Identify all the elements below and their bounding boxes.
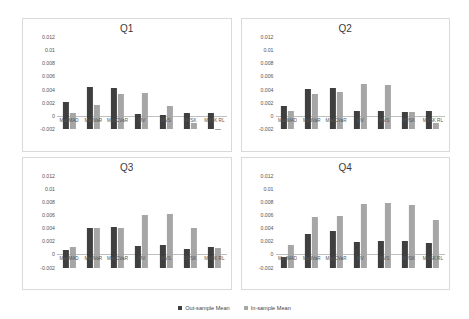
bar (87, 228, 93, 267)
chart-panel-q2: Q20.0120.010.0080.0060.0040.0020-0.002Ma… (241, 18, 451, 152)
legend-item: In-sample Mean (244, 305, 291, 311)
bar (426, 243, 432, 268)
panel-title: Q4 (242, 162, 450, 173)
y-axis-tick: 0.006 (42, 73, 55, 79)
y-axis-tick: 0.012 (261, 173, 274, 179)
y-axis-tick: 0.002 (42, 100, 55, 106)
y-axis-tick: 0.01 (263, 186, 273, 192)
x-axis-tick: MadVaR (85, 256, 103, 261)
y-axis-tick: 0.004 (261, 225, 274, 231)
x-axis-tick: MadMAD (60, 256, 79, 261)
x-axis-tick: MV (357, 118, 364, 123)
y-axis-tick: 0.002 (261, 238, 274, 244)
bar (305, 234, 311, 268)
x-axis-tick: MadCVaR (107, 256, 128, 261)
y-axis-tick: 0.002 (261, 100, 274, 106)
y-axis-tick: 0.006 (261, 73, 274, 79)
bars-area (276, 176, 446, 268)
x-axis-tick: MV (138, 256, 145, 261)
x-axis-tick: MadCVaR (326, 256, 347, 261)
panel-grid: Q10.0120.010.0080.0060.0040.0020-0.002Ma… (22, 18, 450, 290)
x-axis-tick: MVSK (402, 256, 415, 261)
y-axis-tick: 0.01 (263, 47, 273, 53)
bar (330, 88, 336, 129)
y-axis-tick: 0.008 (261, 60, 274, 66)
chart-panel-q1: Q10.0120.010.0080.0060.0040.0020-0.002Ma… (22, 18, 232, 152)
y-axis-tick: 0.01 (45, 47, 55, 53)
y-axis-labels: 0.0120.010.0080.0060.0040.0020-0.002 (244, 37, 274, 129)
y-axis-labels: 0.0120.010.0080.0060.0040.0020-0.002 (244, 176, 274, 268)
y-axis-tick: 0.008 (42, 60, 55, 66)
bar (94, 228, 100, 267)
y-axis-tick: 0 (52, 251, 55, 257)
bar (63, 102, 69, 129)
legend-label: Out-sample Mean (185, 305, 229, 311)
panel-title: Q2 (242, 23, 450, 34)
x-axis-tick: MVS (379, 256, 389, 261)
bar (312, 94, 318, 129)
chart-panel-q4: Q40.0120.010.0080.0060.0040.0020-0.002Ma… (241, 157, 451, 291)
x-axis-tick: MV (357, 256, 364, 261)
x-axis-tick: MadVaR (303, 118, 321, 123)
bar (402, 241, 408, 268)
y-axis-labels: 0.0120.010.0080.0060.0040.0020-0.002 (25, 37, 55, 129)
y-axis-tick: -0.002 (259, 126, 274, 132)
y-axis-tick: 0.004 (261, 87, 274, 93)
x-axis-tick: MadVaR (85, 118, 103, 123)
bars-area (57, 176, 227, 268)
y-axis-tick: 0.008 (42, 199, 55, 205)
bar (305, 89, 311, 129)
bar (215, 129, 221, 130)
y-axis-tick: 0.012 (261, 34, 274, 40)
legend-item: Out-sample Mean (178, 305, 229, 311)
bars-area (57, 37, 227, 129)
x-axis-tick: MVSK RL (204, 256, 224, 261)
x-axis-tick: MadMAD (278, 118, 297, 123)
x-axis-tick: MadCVaR (326, 118, 347, 123)
bar (142, 93, 148, 129)
bar (191, 228, 197, 267)
x-axis-tick: MVSK (184, 118, 197, 123)
y-axis-tick: 0.002 (42, 238, 55, 244)
bar (433, 123, 439, 129)
y-axis-tick: 0 (271, 251, 274, 257)
bar (330, 231, 336, 267)
x-axis-tick: MadMAD (278, 256, 297, 261)
legend-swatch-icon (244, 306, 248, 310)
x-axis-tick: MVSK RL (423, 256, 443, 261)
figure-legend: Out-sample MeanIn-sample Mean (0, 305, 469, 311)
bar (118, 94, 124, 129)
figure-root: Q10.0120.010.0080.0060.0040.0020-0.002Ma… (0, 0, 469, 319)
y-axis-tick: 0.006 (261, 212, 274, 218)
bar (378, 241, 384, 268)
y-axis-tick: -0.002 (40, 265, 55, 271)
y-axis-tick: 0 (271, 113, 274, 119)
chart-panel-q3: Q30.0120.010.0080.0060.0040.0020-0.002Ma… (22, 157, 232, 291)
bar (337, 92, 343, 129)
x-axis-tick: MVSK (184, 256, 197, 261)
x-axis-tick: MV (138, 118, 145, 123)
x-axis-tick: MadCVaR (107, 118, 128, 123)
x-axis-tick: MadVaR (303, 256, 321, 261)
x-axis-tick: MVSK RL (423, 118, 443, 123)
x-axis-tick: MVS (161, 118, 171, 123)
y-axis-tick: 0.006 (42, 212, 55, 218)
y-axis-tick: 0.008 (261, 199, 274, 205)
bar (94, 105, 100, 129)
x-axis-tick: MVS (379, 118, 389, 123)
x-axis-tick: MVSK (402, 118, 415, 123)
x-axis-tick: MVS (161, 256, 171, 261)
y-axis-tick: 0.012 (42, 34, 55, 40)
panel-title: Q3 (23, 162, 231, 173)
bar (191, 123, 197, 129)
x-axis-tick: MVSK RL (204, 118, 224, 123)
y-axis-labels: 0.0120.010.0080.0060.0040.0020-0.002 (25, 176, 55, 268)
legend-swatch-icon (178, 306, 182, 310)
y-axis-tick: 0.004 (42, 225, 55, 231)
y-axis-tick: 0.004 (42, 87, 55, 93)
y-axis-tick: -0.002 (40, 126, 55, 132)
bar (118, 228, 124, 267)
bar (354, 242, 360, 268)
x-axis-tick: MadMAD (60, 118, 79, 123)
bars-area (276, 37, 446, 129)
